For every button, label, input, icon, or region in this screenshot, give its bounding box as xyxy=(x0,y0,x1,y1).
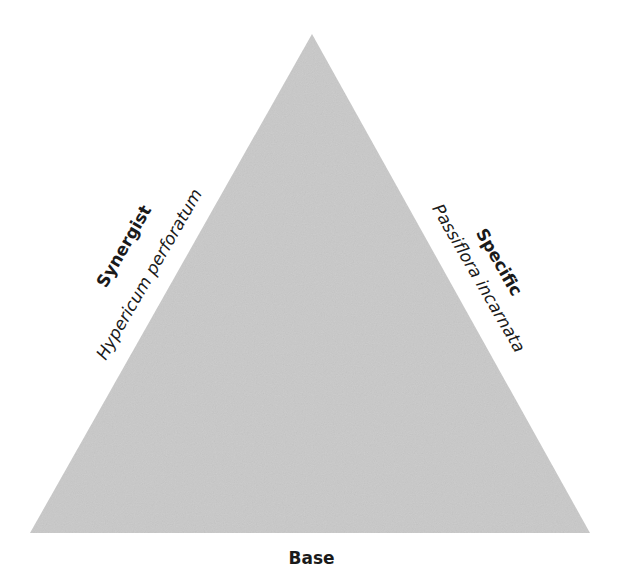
base-label: Base xyxy=(0,548,623,568)
triangle-diagram xyxy=(0,0,623,575)
